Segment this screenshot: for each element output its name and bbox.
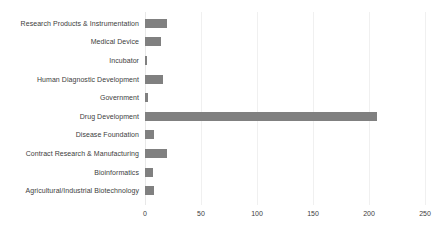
x-tick-label: 200 [363,209,375,218]
x-tick-label: 100 [251,209,263,218]
x-tick-label: 0 [143,209,147,218]
bar-chart: Research Products & InstrumentationMedic… [0,0,448,233]
x-tick-label: 250 [419,209,431,218]
x-axis: 050100150200250 [0,0,448,233]
x-tick-label: 150 [307,209,319,218]
x-tick-label: 50 [197,209,205,218]
